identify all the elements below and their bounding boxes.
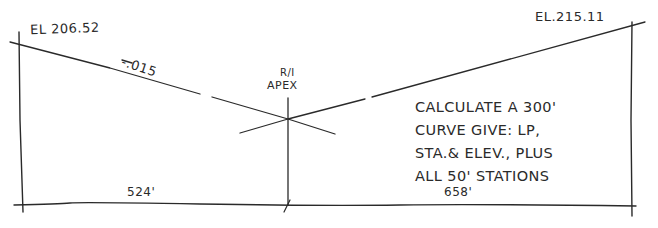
length-right-label: 658' bbox=[444, 186, 472, 198]
apex-station-tick bbox=[284, 200, 290, 212]
elevation-right-label: EL.215.11 bbox=[535, 10, 605, 23]
apex-label-line2: APEX bbox=[267, 80, 298, 91]
apex-label-line1: R/I bbox=[280, 68, 295, 78]
problem-note: CALCULATE A 300' CURVE GIVE: LP, STA.& E… bbox=[415, 96, 556, 188]
note-line: CALCULATE A 300' bbox=[415, 96, 556, 119]
length-left-label: 524' bbox=[127, 186, 155, 198]
note-line: STA.& ELEV., PLUS bbox=[415, 142, 556, 165]
left-vertical-line bbox=[19, 32, 23, 212]
note-line: ALL 50' STATIONS bbox=[415, 165, 556, 188]
note-line: CURVE GIVE: LP, bbox=[415, 119, 556, 142]
elevation-left-label: EL 206.52 bbox=[30, 21, 100, 36]
baseline bbox=[14, 203, 636, 206]
right-vertical-line bbox=[631, 22, 632, 216]
